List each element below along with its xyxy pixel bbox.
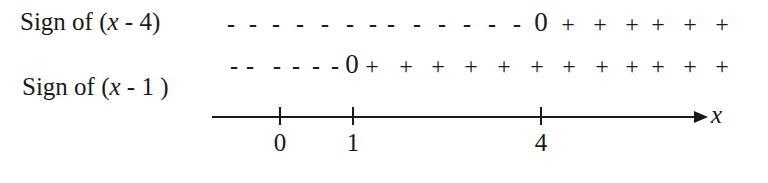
number-line — [0, 0, 768, 183]
tick-label: 4 — [535, 129, 548, 157]
tick-label: 1 — [347, 129, 360, 157]
axis-arrow-icon — [694, 111, 708, 123]
axis-variable-label: x — [711, 101, 722, 129]
tick-label: 0 — [274, 129, 287, 157]
